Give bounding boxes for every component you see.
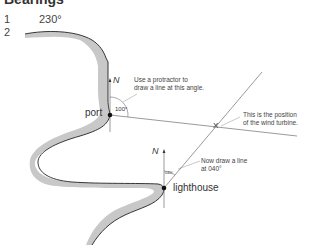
draw-line-pointer	[178, 161, 200, 169]
lighthouse-north-arrow-icon	[163, 149, 166, 153]
protractor-annotation-line2: draw a line at this angle.	[134, 84, 204, 92]
lighthouse-marker	[162, 186, 167, 191]
lighthouse-label: lighthouse	[173, 182, 219, 193]
draw-line-annotation-line1: Now draw a line	[201, 157, 247, 165]
turbine-annotation-line2: of the wind turbine.	[243, 119, 298, 127]
turbine-annotation: This is the position of the wind turbine…	[243, 111, 298, 126]
protractor-annotation-line1: Use a protractor to	[134, 76, 204, 84]
port-marker	[108, 113, 113, 118]
lighthouse-north-label: N	[152, 146, 159, 156]
turbine-pointer	[221, 117, 240, 126]
coastline-edge	[25, 32, 164, 245]
turbine-annotation-line1: This is the position	[243, 111, 298, 119]
turbine-position-mark: X	[213, 121, 218, 130]
port-angle-value: 100°	[115, 106, 127, 112]
port-north-arrow-icon	[109, 78, 112, 82]
draw-line-annotation: Now draw a line at 040°	[201, 157, 247, 172]
lighthouse-angle-value: 040°	[165, 170, 173, 175]
protractor-annotation: Use a protractor to draw a line at this …	[134, 76, 204, 91]
coastline-shading	[25, 32, 164, 245]
draw-line-annotation-line2: at 040°	[201, 165, 247, 173]
port-label: port	[85, 107, 102, 118]
protractor-pointer	[123, 94, 137, 102]
port-north-label: N	[113, 75, 120, 85]
